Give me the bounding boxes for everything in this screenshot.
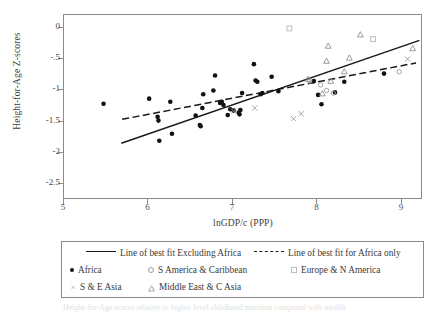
data-point (168, 99, 173, 104)
data-point (291, 116, 296, 121)
data-point (238, 108, 243, 113)
figure-caption: Height-for-Age scores relative to higher… (63, 303, 423, 312)
legend-row: Line of best fit Excluding AfricaLine of… (62, 245, 423, 262)
data-point (156, 118, 161, 123)
x-axis-title: lnGDP/c (PPP) (63, 218, 423, 228)
data-point (157, 138, 162, 143)
open-triangle-icon (148, 279, 155, 296)
x-tick-label: 8 (304, 202, 328, 212)
fit-line-africa (122, 63, 416, 119)
data-point (260, 91, 265, 96)
data-point (170, 131, 175, 136)
chart-legend: Line of best fit Excluding AfricaLine of… (61, 241, 424, 298)
open-square-icon (291, 267, 297, 273)
data-point (324, 58, 330, 63)
legend-entry: ×S & E Asia (70, 279, 122, 296)
data-point (341, 69, 347, 74)
data-layer (63, 14, 422, 199)
fit-line-excluding-africa (121, 40, 419, 143)
legend-label: Middle East & C Asia (159, 282, 241, 292)
data-point (299, 111, 304, 116)
legend-entry: Middle East & C Asia (148, 279, 241, 296)
data-point (318, 83, 322, 87)
data-point (325, 43, 331, 48)
data-point (252, 105, 257, 110)
legend-entry: S America & Caribbean (148, 262, 247, 279)
data-point (405, 57, 410, 62)
data-point (347, 55, 353, 60)
x-tick-label: 7 (220, 202, 244, 212)
data-point (397, 69, 401, 73)
legend-entry: Europe & N America (291, 262, 380, 279)
y-tick-label: -.5 (20, 52, 60, 62)
legend-entry: Line of best fit for Africa only (254, 245, 401, 262)
data-point (193, 113, 198, 118)
data-point (198, 124, 203, 129)
data-point (269, 74, 274, 79)
data-point (255, 79, 260, 84)
cross-icon: × (70, 285, 76, 291)
plot-area: Height-for-Age Z-scores 0-.5-1-1.5-2-2.5… (0, 0, 434, 238)
data-point (252, 62, 257, 67)
y-tick-label: -1 (20, 83, 60, 93)
data-point (410, 45, 416, 50)
open-circle-icon (148, 267, 154, 273)
data-point (324, 88, 328, 92)
data-point (237, 112, 242, 117)
dashed-line-icon (254, 251, 284, 252)
data-point (276, 89, 281, 94)
data-point (319, 102, 324, 107)
data-point (211, 88, 216, 93)
legend-entry: Africa (70, 262, 102, 279)
data-point (213, 73, 218, 78)
data-point (147, 96, 152, 101)
legend-row: ×S & E AsiaMiddle East & C Asia (62, 279, 423, 296)
data-point (382, 71, 387, 76)
data-point (201, 92, 206, 97)
figure-scatter-plot: Height-for-Age Z-scores 0-.5-1-1.5-2-2.5… (0, 0, 434, 314)
data-point (101, 101, 106, 106)
legend-entry: Line of best fit Excluding Africa (86, 245, 241, 262)
filled-circle-icon (70, 268, 74, 272)
legend-label: Africa (78, 265, 102, 275)
y-tick-label: -2.5 (20, 177, 60, 187)
data-markers-group (101, 26, 415, 143)
data-point (287, 26, 292, 31)
legend-label: Europe & N America (301, 265, 380, 275)
data-point (225, 113, 230, 118)
data-point (357, 32, 363, 37)
data-point (200, 106, 205, 111)
data-point (221, 103, 226, 108)
legend-label: Line of best fit for Africa only (288, 248, 401, 258)
legend-label: S America & Caribbean (158, 265, 247, 275)
legend-row: AfricaS America & CaribbeanEurope & N Am… (62, 262, 423, 279)
legend-label: S & E Asia (80, 282, 122, 292)
data-point (371, 37, 376, 42)
fit-lines-group (121, 40, 419, 143)
y-tick-label: 0 (20, 21, 60, 31)
x-tick-label: 6 (135, 202, 159, 212)
y-tick-label: -1.5 (20, 115, 60, 125)
solid-line-icon (86, 251, 116, 252)
legend-label: Line of best fit Excluding Africa (120, 248, 241, 258)
x-tick-label: 5 (51, 202, 75, 212)
y-tick-label: -2 (20, 146, 60, 156)
data-point (240, 91, 245, 96)
x-tick-label: 9 (389, 202, 413, 212)
data-point (342, 79, 347, 84)
